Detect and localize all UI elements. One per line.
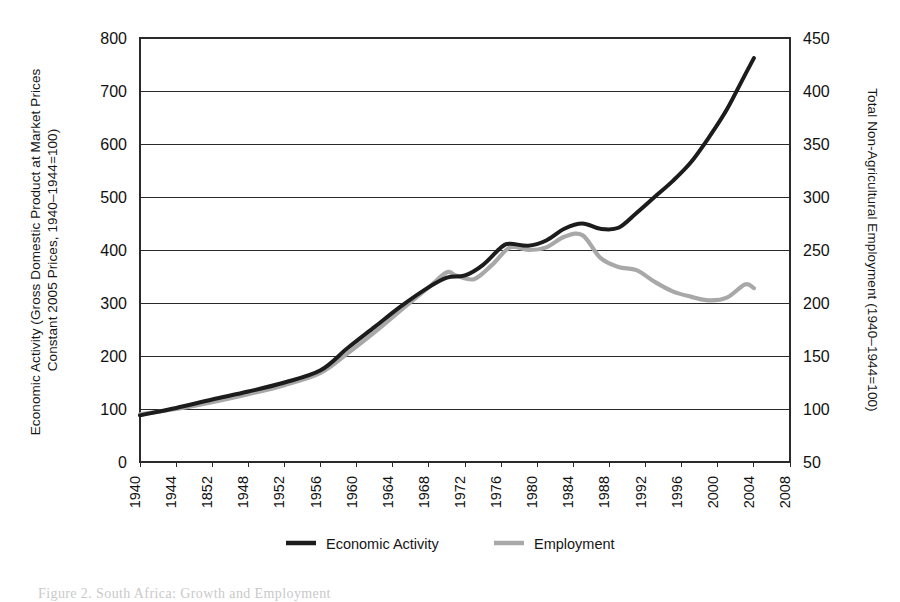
- right-tick-label: 100: [803, 401, 830, 418]
- x-tick-label: 1972: [452, 476, 468, 508]
- left-tick-label: 800: [100, 30, 127, 47]
- right-tick-label: 450: [803, 30, 830, 47]
- left-tick-label: 700: [100, 83, 127, 100]
- legend-label-economic-activity: Economic Activity: [326, 536, 440, 552]
- left-tick-label: 600: [100, 136, 127, 153]
- right-tick-label: 350: [803, 136, 830, 153]
- right-tick-label: 250: [803, 242, 830, 259]
- x-tick-label: 1996: [669, 476, 685, 508]
- figure-container: Economic Activity (Gross Domestic Produc…: [0, 0, 900, 602]
- x-tick-label: 1944: [163, 476, 179, 508]
- right-tick-label: 150: [803, 348, 830, 365]
- left-tick-label: 100: [100, 401, 127, 418]
- x-tick-label: 1976: [488, 476, 504, 508]
- legend-label-employment: Employment: [534, 536, 615, 552]
- x-tick-label: 1940: [127, 476, 143, 508]
- left-tick-label: 500: [100, 189, 127, 206]
- right-tick-label: 200: [803, 295, 830, 312]
- x-tick-label: 2000: [705, 476, 721, 508]
- x-tick-label: 1988: [596, 476, 612, 508]
- right-tick-label: 400: [803, 83, 830, 100]
- right-tick-label: 300: [803, 189, 830, 206]
- x-tick-label: 1980: [524, 476, 540, 508]
- right-axis-title: Total Non-Agricultural Employment (1940–…: [865, 88, 880, 411]
- right-tick-label: 50: [803, 454, 821, 471]
- x-tick-label: 1960: [344, 476, 360, 508]
- figure-caption: Figure 2. South Africa: Growth and Emplo…: [38, 586, 331, 602]
- left-tick-label: 0: [118, 454, 127, 471]
- x-tick-label: 1964: [380, 476, 396, 508]
- x-tick-label: 1852: [199, 476, 215, 508]
- left-axis-tick-labels: 0100200300400500600700800: [100, 30, 127, 471]
- x-tick-label: 1992: [633, 476, 649, 508]
- x-tick-label: 2008: [777, 476, 793, 508]
- left-tick-label: 200: [100, 348, 127, 365]
- x-tick-label: 1952: [271, 476, 287, 508]
- chart-background: [0, 0, 900, 602]
- left-tick-label: 400: [100, 242, 127, 259]
- x-tick-label: 1948: [235, 476, 251, 508]
- line-chart: Economic Activity (Gross Domestic Produc…: [0, 0, 900, 602]
- x-tick-label: 1956: [308, 476, 324, 508]
- x-tick-label: 1968: [416, 476, 432, 508]
- x-tick-label: 2004: [741, 476, 757, 508]
- left-tick-label: 300: [100, 295, 127, 312]
- x-tick-label: 1984: [560, 476, 576, 508]
- right-axis-title-text: Total Non-Agricultural Employment (1940–…: [865, 88, 880, 411]
- right-axis-tick-labels: 50100150200250300350400450: [803, 30, 830, 471]
